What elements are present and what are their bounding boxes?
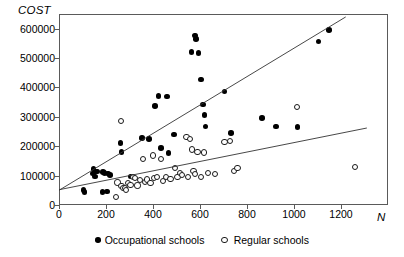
- data-point-regular: [352, 164, 358, 170]
- chart-legend: Occupational schools Regular schools: [0, 234, 404, 246]
- data-point-regular: [294, 104, 300, 110]
- x-tick-mark: [153, 205, 154, 209]
- y-tick-mark: [54, 87, 59, 88]
- data-point-occupational: [316, 39, 322, 45]
- data-point-occupational: [198, 77, 204, 83]
- data-point-regular: [187, 136, 193, 142]
- data-point-regular: [154, 174, 160, 180]
- data-point-occupational: [189, 49, 195, 55]
- x-tick-mark: [341, 205, 342, 209]
- y-tick-label: 600000: [7, 24, 55, 34]
- x-axis-title: N: [377, 211, 386, 223]
- x-tick-label: 1000: [274, 209, 314, 219]
- data-point-occupational: [152, 103, 158, 109]
- data-point-occupational: [171, 132, 177, 138]
- data-point-occupational: [273, 124, 279, 130]
- data-point-occupational: [202, 112, 208, 118]
- x-tick-label: 600: [180, 209, 220, 219]
- x-tick-label: 0: [39, 209, 79, 219]
- data-point-occupational: [196, 50, 202, 56]
- data-point-occupational: [107, 172, 113, 178]
- data-point-occupational: [119, 149, 125, 155]
- data-point-occupational: [326, 27, 332, 33]
- data-point-occupational: [118, 140, 124, 146]
- data-point-regular: [118, 118, 124, 124]
- y-tick-label: 400000: [7, 82, 55, 92]
- legend-label-occupational-schools: Occupational schools: [105, 234, 205, 246]
- data-point-regular: [212, 171, 218, 177]
- data-point-occupational: [164, 94, 170, 100]
- data-point-occupational: [295, 124, 301, 130]
- filled-circle-icon: [95, 237, 101, 243]
- data-point-occupational: [156, 93, 162, 99]
- data-point-regular: [158, 156, 164, 162]
- data-point-occupational: [104, 189, 110, 195]
- plot-area: [59, 14, 388, 205]
- data-point-occupational: [200, 102, 206, 108]
- data-point-regular: [194, 149, 200, 155]
- y-tick-label: 100000: [7, 171, 55, 181]
- x-tick-label: 800: [227, 209, 267, 219]
- legend-item-regular-schools: Regular schools: [221, 234, 308, 246]
- data-point-regular: [113, 194, 119, 200]
- data-point-regular: [185, 174, 191, 180]
- open-circle-icon: [221, 237, 227, 243]
- data-point-regular: [167, 176, 173, 182]
- scatter-chart: COST N 010000020000030000040000050000060…: [0, 0, 404, 257]
- data-point-regular: [205, 170, 211, 176]
- data-point-occupational: [203, 124, 209, 130]
- data-point-occupational: [139, 135, 145, 141]
- data-point-occupational: [82, 189, 88, 195]
- data-point-occupational: [146, 136, 152, 142]
- y-tick-mark: [54, 176, 59, 177]
- data-point-occupational: [193, 36, 199, 42]
- legend-item-occupational-schools: Occupational schools: [95, 234, 204, 246]
- data-point-regular: [201, 149, 207, 155]
- y-tick-label: 500000: [7, 53, 55, 63]
- legend-label-regular-schools: Regular schools: [234, 234, 309, 246]
- x-tick-mark: [294, 205, 295, 209]
- data-point-occupational: [166, 150, 172, 156]
- y-tick-label: 200000: [7, 141, 55, 151]
- y-tick-mark: [54, 117, 59, 118]
- y-tick-mark: [54, 58, 59, 59]
- y-tick-mark: [54, 29, 59, 30]
- data-point-regular: [234, 165, 240, 171]
- data-point-occupational: [228, 130, 234, 136]
- y-tick-mark: [54, 146, 59, 147]
- y-tick-label: 300000: [7, 112, 55, 122]
- x-tick-mark: [59, 205, 60, 209]
- x-tick-mark: [200, 205, 201, 209]
- data-point-regular: [227, 138, 233, 144]
- x-tick-label: 1200: [321, 209, 361, 219]
- data-point-occupational: [94, 169, 100, 175]
- data-point-regular: [134, 182, 140, 188]
- x-tick-mark: [106, 205, 107, 209]
- data-point-regular: [150, 152, 156, 158]
- data-point-occupational: [92, 174, 98, 180]
- data-point-regular: [127, 182, 133, 188]
- x-tick-label: 200: [86, 209, 126, 219]
- data-point-occupational: [222, 89, 228, 95]
- x-tick-label: 400: [133, 209, 173, 219]
- data-point-regular: [198, 174, 204, 180]
- data-point-regular: [140, 156, 146, 162]
- data-point-occupational: [259, 115, 265, 121]
- data-point-occupational: [158, 145, 164, 151]
- x-tick-mark: [247, 205, 248, 209]
